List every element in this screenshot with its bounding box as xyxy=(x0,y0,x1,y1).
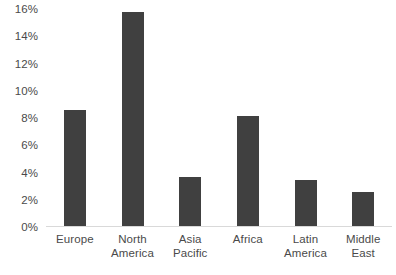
bar-slot xyxy=(104,0,162,226)
x-axis-category-label: MiddleEast xyxy=(334,232,392,275)
y-axis-tick-label: 4% xyxy=(21,167,38,179)
x-axis-line xyxy=(46,226,392,227)
bar[interactable] xyxy=(179,177,201,226)
y-axis: 16%14%12%10%8%6%4%2%0% xyxy=(0,0,46,275)
x-axis-category-label: NorthAmerica xyxy=(104,232,162,275)
bar-slot xyxy=(334,0,392,226)
bar-chart: 16%14%12%10%8%6%4%2%0% EuropeNorthAmeric… xyxy=(0,0,396,275)
x-axis-category-label: Europe xyxy=(46,232,104,275)
bar-slot xyxy=(219,0,277,226)
bar-slot xyxy=(277,0,335,226)
plot-area xyxy=(46,0,396,227)
y-axis-tick-label: 2% xyxy=(21,194,38,206)
x-axis-label-line: Asia Pacific xyxy=(161,232,219,260)
x-axis: EuropeNorthAmericaAsia PacificAfricaLati… xyxy=(46,232,392,275)
y-axis-tick-label: 12% xyxy=(15,58,38,70)
y-axis-tick-label: 6% xyxy=(21,139,38,151)
bar[interactable] xyxy=(237,116,259,226)
x-axis-label-line: Latin xyxy=(277,232,335,246)
bar[interactable] xyxy=(352,192,374,226)
x-axis-label-line: North xyxy=(104,232,162,246)
x-axis-label-line: America xyxy=(104,246,162,260)
y-axis-tick-label: 0% xyxy=(21,221,38,233)
bar-slot xyxy=(161,0,219,226)
y-axis-tick-label: 8% xyxy=(21,112,38,124)
y-axis-tick-label: 10% xyxy=(15,85,38,97)
x-axis-label-line: America xyxy=(277,246,335,260)
bar[interactable] xyxy=(64,110,86,226)
x-axis-category-label: LatinAmerica xyxy=(277,232,335,275)
x-axis-label-line: East xyxy=(334,246,392,260)
y-axis-tick-label: 16% xyxy=(15,3,38,15)
bar-slot xyxy=(46,0,104,226)
y-axis-tick-label: 14% xyxy=(15,30,38,42)
x-axis-label-line: Europe xyxy=(46,232,104,246)
bar[interactable] xyxy=(295,180,317,226)
bar-series xyxy=(46,0,392,226)
x-axis-category-label: Asia Pacific xyxy=(161,232,219,275)
x-axis-category-label: Africa xyxy=(219,232,277,275)
bar[interactable] xyxy=(122,12,144,226)
x-axis-label-line: Africa xyxy=(219,232,277,246)
x-axis-label-line: Middle xyxy=(334,232,392,246)
